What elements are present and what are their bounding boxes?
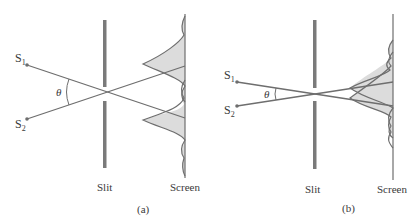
angle-theta-label: θ (56, 86, 62, 98)
angle-theta-label: θ (264, 88, 270, 100)
panel-a: S1 S2 θ Slit Screen (a) (15, 14, 200, 216)
slit-barrier-upper (313, 20, 317, 88)
source-s1-dot (235, 80, 239, 84)
slit-barrier-lower (313, 101, 317, 169)
angle-arc (67, 79, 70, 105)
caption-a: (a) (137, 203, 150, 216)
source-s2-dot (25, 117, 29, 121)
caption-b: (b) (342, 202, 355, 215)
panel-b: S1 S2 θ Slit Screen (b) (224, 14, 407, 215)
screen-label: Screen (377, 183, 407, 195)
slit-barrier-lower (103, 101, 107, 168)
slit-label: Slit (305, 183, 320, 195)
slit-label: Slit (97, 181, 112, 193)
diffraction-pattern-s1 (143, 86, 185, 176)
diffraction-pattern-s2 (143, 16, 185, 100)
source-s1-label: S1 (15, 51, 26, 67)
angle-arc (275, 88, 276, 100)
source-s2-label: S2 (15, 117, 26, 133)
slit-barrier-upper (103, 20, 107, 87)
screen-label: Screen (170, 181, 200, 193)
source-s1-label: S1 (224, 68, 235, 84)
source-s2-dot (235, 104, 239, 108)
source-s1-dot (25, 63, 29, 67)
source-s2-label: S2 (224, 103, 235, 119)
diffraction-diagram: S1 S2 θ Slit Screen (a) S1 S2 θ Slit Scr… (0, 0, 419, 222)
